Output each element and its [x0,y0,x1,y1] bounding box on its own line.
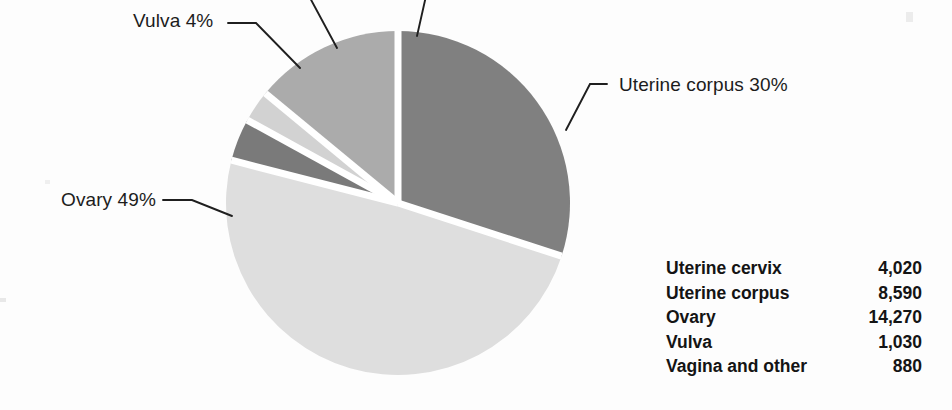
leader-line-vulva [228,23,300,68]
leader-line-uterine-corpus [566,84,607,130]
pie-chart-figure: Vulva 4% Ovary 49% Uterine corpus 30% Ut… [0,0,952,410]
table-cell-count: 1,030 [851,332,924,357]
table-cell-site: Uterine corpus [666,283,851,308]
callout-label-ovary: Ovary 49% [61,189,156,211]
table-cell-site: Uterine cervix [666,258,851,283]
table-cell-site: Ovary [666,307,851,332]
case-estimates-table: Uterine cervix 4,020 Uterine corpus 8,59… [666,258,924,381]
table-cell-site: Vagina and other [666,356,851,381]
table-row: Uterine cervix 4,020 [666,258,924,283]
table-cell-count: 14,270 [851,307,924,332]
scan-artifact-speck [45,180,50,184]
table-row: Vulva 1,030 [666,332,924,357]
leader-line-ovary [163,200,232,216]
table-cell-count: 8,590 [851,283,924,308]
scan-artifact-speck [0,298,6,302]
table-row: Uterine corpus 8,590 [666,283,924,308]
table-row: Ovary 14,270 [666,307,924,332]
table-cell-site: Vulva [666,332,851,357]
scan-artifact-speck [906,12,913,22]
callout-label-uterine-corpus: Uterine corpus 30% [619,74,788,96]
table-cell-count: 4,020 [851,258,924,283]
callout-label-vulva: Vulva 4% [133,10,213,32]
leader-line-uterine-cervix [417,0,426,36]
table-cell-count: 880 [851,356,924,381]
table-row: Vagina and other 880 [666,356,924,381]
case-estimates-table-body: Uterine cervix 4,020 Uterine corpus 8,59… [666,258,924,381]
leader-line-vagina-and-other [309,0,337,48]
